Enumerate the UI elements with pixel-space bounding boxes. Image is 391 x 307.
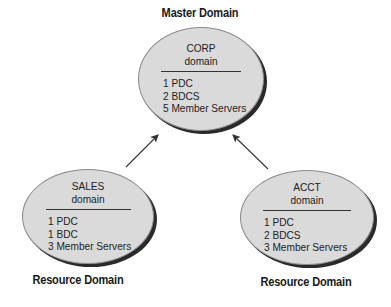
corp-divider xyxy=(161,71,241,72)
sales-item-bdc: 1 BDC xyxy=(48,228,131,241)
acct-domain-node: ACCT domain 1 PDC 2 BDCS 3 Member Server… xyxy=(240,170,374,265)
sales-item-pdc: 1 PDC xyxy=(48,215,131,228)
acct-domain-subtitle: domain xyxy=(246,194,367,207)
arrow-acct-to-corp xyxy=(233,135,268,169)
corp-item-pdc: 1 PDC xyxy=(163,77,246,90)
corp-item-member-servers: 5 Member Servers xyxy=(163,102,246,115)
acct-domain-name: ACCT xyxy=(246,181,367,194)
sales-domain-node: SALES domain 1 PDC 1 BDC 3 Member Server… xyxy=(22,169,154,264)
acct-item-bdc: 2 BDCS xyxy=(264,229,347,242)
acct-server-list: 1 PDC 2 BDCS 3 Member Servers xyxy=(264,216,347,254)
acct-item-pdc: 1 PDC xyxy=(264,216,347,229)
acct-resource-domain-label: Resource Domain xyxy=(260,275,361,289)
corp-domain-node: CORP domain 1 PDC 2 BDCS 5 Member Server… xyxy=(138,27,264,131)
arrow-sales-to-corp xyxy=(126,135,158,167)
acct-item-member-servers: 3 Member Servers xyxy=(264,241,347,254)
corp-server-list: 1 PDC 2 BDCS 5 Member Servers xyxy=(163,77,246,115)
sales-domain-name: SALES xyxy=(28,180,148,193)
sales-resource-domain-label: Resource Domain xyxy=(32,273,133,287)
corp-item-bdc: 2 BDCS xyxy=(163,90,246,103)
corp-domain-subtitle: domain xyxy=(144,55,258,68)
sales-server-list: 1 PDC 1 BDC 3 Member Servers xyxy=(48,215,131,253)
sales-item-member-servers: 3 Member Servers xyxy=(48,240,131,253)
domain-diagram: Master Domain CORP domain 1 PDC 2 BDCS 5… xyxy=(0,0,391,307)
sales-domain-subtitle: domain xyxy=(28,193,148,206)
corp-domain-name: CORP xyxy=(144,42,258,55)
acct-divider xyxy=(263,210,351,211)
sales-divider xyxy=(46,209,131,210)
master-domain-label: Master Domain xyxy=(154,6,246,20)
